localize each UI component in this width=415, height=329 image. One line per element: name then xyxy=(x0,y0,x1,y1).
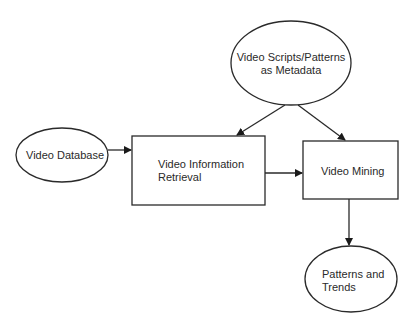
patterns-and-trends-label: Patterns and Trends xyxy=(322,268,384,294)
video-mining-label: Video Mining xyxy=(321,165,384,178)
edge-metadata-to-retrieval xyxy=(237,105,285,135)
patterns-label-line-2: Trends xyxy=(322,281,384,294)
video-database-label: Video Database xyxy=(26,149,104,162)
patterns-label-line-1: Patterns and xyxy=(322,268,384,281)
metadata-label-line-1: Video Scripts/Patterns xyxy=(236,51,346,64)
video-scripts-metadata-label: Video Scripts/Patterns as Metadata xyxy=(236,51,346,77)
retrieval-label-line-1: Video Information xyxy=(158,158,244,171)
video-information-retrieval-label: Video Information Retrieval xyxy=(158,158,244,184)
retrieval-label-line-2: Retrieval xyxy=(158,171,244,184)
metadata-label-line-2: as Metadata xyxy=(236,64,346,77)
edge-metadata-to-mining xyxy=(298,105,345,140)
